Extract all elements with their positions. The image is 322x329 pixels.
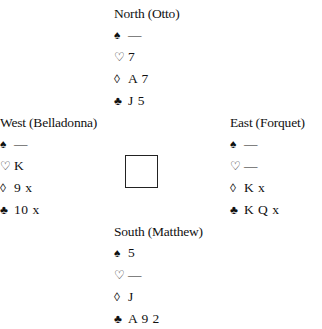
south-hearts: — — [128, 267, 142, 282]
club-icon: ♣ — [230, 200, 244, 221]
east-diamonds: K x — [244, 180, 265, 195]
west-clubs-row: ♣10 x — [0, 199, 97, 221]
west-hand: West (Belladonna) ♠— ♡K ◊9 x ♣10 x — [0, 112, 97, 221]
spade-icon: ♠ — [230, 134, 244, 155]
north-spades-row: ♠— — [114, 24, 179, 46]
north-hand: North (Otto) ♠— ♡7 ◊A 7 ♣J 5 — [114, 3, 179, 112]
west-clubs: 10 x — [14, 202, 40, 217]
table-square — [125, 155, 158, 188]
heart-icon: ♡ — [114, 47, 128, 68]
west-diamonds: 9 x — [14, 180, 32, 195]
east-hearts: — — [244, 158, 258, 173]
west-title: West (Belladonna) — [0, 112, 97, 133]
club-icon: ♣ — [114, 91, 128, 112]
north-diamonds-row: ◊A 7 — [114, 68, 179, 90]
east-title: East (Forquet) — [230, 112, 305, 133]
south-diamonds-row: ◊J — [114, 286, 203, 308]
north-title: North (Otto) — [114, 3, 179, 24]
south-title: South (Matthew) — [114, 221, 203, 242]
heart-icon: ♡ — [114, 265, 128, 286]
north-spades: — — [128, 27, 142, 42]
south-clubs: A 9 2 — [128, 311, 160, 326]
diamond-icon: ◊ — [0, 178, 14, 199]
diamond-icon: ◊ — [114, 287, 128, 308]
west-spades: — — [14, 136, 28, 151]
south-hearts-row: ♡— — [114, 264, 203, 286]
west-spades-row: ♠— — [0, 133, 97, 155]
south-spades-row: ♠5 — [114, 242, 203, 264]
north-diamonds: A 7 — [128, 71, 149, 86]
west-hearts-row: ♡K — [0, 155, 97, 177]
club-icon: ♣ — [114, 309, 128, 329]
east-clubs: K Q x — [244, 202, 280, 217]
east-spades-row: ♠— — [230, 133, 305, 155]
spade-icon: ♠ — [0, 134, 14, 155]
diamond-icon: ◊ — [114, 69, 128, 90]
spade-icon: ♠ — [114, 243, 128, 264]
heart-icon: ♡ — [0, 156, 14, 177]
west-hearts: K — [14, 158, 24, 173]
south-diamonds: J — [128, 289, 134, 304]
north-hearts: 7 — [128, 49, 135, 64]
club-icon: ♣ — [0, 200, 14, 221]
east-spades: — — [244, 136, 258, 151]
east-hearts-row: ♡— — [230, 155, 305, 177]
north-clubs: J 5 — [128, 93, 145, 108]
spade-icon: ♠ — [114, 25, 128, 46]
south-hand: South (Matthew) ♠5 ♡— ◊J ♣A 9 2 — [114, 221, 203, 329]
east-diamonds-row: ◊K x — [230, 177, 305, 199]
south-spades: 5 — [128, 245, 135, 260]
east-clubs-row: ♣K Q x — [230, 199, 305, 221]
south-clubs-row: ♣A 9 2 — [114, 308, 203, 329]
north-hearts-row: ♡7 — [114, 46, 179, 68]
west-diamonds-row: ◊9 x — [0, 177, 97, 199]
heart-icon: ♡ — [230, 156, 244, 177]
diamond-icon: ◊ — [230, 178, 244, 199]
east-hand: East (Forquet) ♠— ♡— ◊K x ♣K Q x — [230, 112, 305, 221]
north-clubs-row: ♣J 5 — [114, 90, 179, 112]
